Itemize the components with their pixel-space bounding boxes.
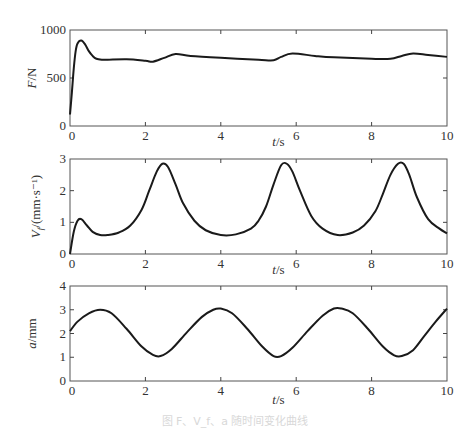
y-axis-label: a/mm <box>24 318 39 348</box>
x-tick-label: 8 <box>368 128 375 143</box>
y-tick-label: 500 <box>47 70 67 85</box>
x-tick-label: 10 <box>441 256 454 271</box>
y-tick-label: 3 <box>60 151 67 166</box>
x-tick-label: 2 <box>142 128 149 143</box>
series-line-a <box>70 308 447 357</box>
figure-caption: 图 F、V_f、a 随时间变化曲线 <box>0 412 470 428</box>
x-tick-label: 8 <box>368 256 375 271</box>
x-tick-label: 6 <box>293 128 300 143</box>
x-tick-label: 2 <box>142 256 149 271</box>
plot-frame <box>70 30 447 126</box>
chart-panel-displacement: 024681001234t/sa/mm <box>24 278 454 407</box>
x-axis-label: t/s <box>272 392 284 407</box>
x-tick-label: 4 <box>218 128 225 143</box>
y-tick-label: 0 <box>60 373 67 388</box>
y-tick-label: 1000 <box>40 22 66 37</box>
y-tick-label: 3 <box>60 302 67 317</box>
y-tick-label: 1 <box>60 214 67 229</box>
x-tick-label: 10 <box>441 128 454 143</box>
chart-panel-force: 024681005001000t/sF/N <box>24 22 454 149</box>
y-tick-label: 2 <box>60 326 67 341</box>
y-tick-label: 0 <box>60 246 67 261</box>
x-axis-label: t/s <box>272 134 284 149</box>
y-tick-label: 4 <box>60 278 67 293</box>
y-tick-label: 0 <box>60 118 67 133</box>
y-tick-label: 1 <box>60 349 67 364</box>
x-tick-label: 6 <box>293 383 300 398</box>
y-tick-label: 2 <box>60 183 67 198</box>
x-tick-label: 4 <box>218 383 225 398</box>
x-tick-label: 4 <box>218 256 225 271</box>
x-tick-label: 0 <box>69 128 76 143</box>
series-line-f <box>70 41 447 115</box>
x-tick-label: 8 <box>368 383 375 398</box>
x-tick-label: 0 <box>69 383 76 398</box>
x-tick-label: 0 <box>69 256 76 271</box>
plot-frame <box>70 286 447 381</box>
series-line-vf <box>70 162 447 254</box>
x-tick-label: 2 <box>142 383 149 398</box>
figure: 024681005001000t/sF/N02468100123t/sVf/(m… <box>0 0 470 428</box>
y-axis-label: F/N <box>24 67 39 90</box>
chart-panel-velocity: 02468100123t/sVf/(mm·s⁻¹) <box>28 151 454 277</box>
x-tick-label: 6 <box>293 256 300 271</box>
x-tick-label: 10 <box>441 383 454 398</box>
y-axis-label: Vf/(mm·s⁻¹) <box>28 175 45 238</box>
x-axis-label: t/s <box>272 262 284 277</box>
